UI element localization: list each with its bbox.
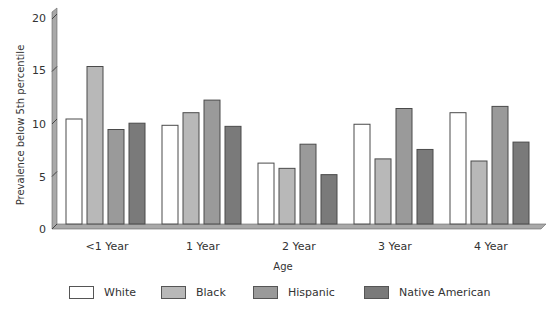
- legend-item-white: White: [69, 284, 136, 300]
- x-category-label-3-year: 3 Year: [350, 240, 440, 253]
- bar-white-2: [258, 163, 274, 224]
- bars-group: [66, 67, 529, 225]
- y-tick-label-20: 20: [24, 13, 46, 24]
- bar-white-0: [66, 119, 82, 224]
- legend-label-hispanic: Hispanic: [288, 286, 335, 299]
- bar-black-0: [87, 67, 103, 225]
- legend: White Black Hispanic Native American: [0, 284, 556, 304]
- bar-black-3: [375, 159, 391, 224]
- legend-label-black: Black: [196, 286, 226, 299]
- bar-hispanic-1: [204, 100, 220, 224]
- bar-hispanic-4: [492, 106, 508, 224]
- bar-hispanic-0: [108, 130, 124, 225]
- y-tick-label-10: 10: [24, 119, 46, 130]
- bar-black-1: [183, 113, 199, 224]
- bar-native-american-4: [513, 142, 529, 224]
- bar-native-american-2: [321, 175, 337, 224]
- bar-white-3: [354, 124, 370, 224]
- legend-item-native-american: Native American: [364, 284, 490, 300]
- x-category-label-2-year: 2 Year: [254, 240, 344, 253]
- bar-native-american-1: [225, 126, 241, 224]
- legend-swatch-native-american: [364, 286, 389, 299]
- bar-chart: Prevalence below 5th percentile 0 5 10 1…: [0, 0, 556, 309]
- x-category-label-4-year: 4 Year: [446, 240, 536, 253]
- bar-hispanic-3: [396, 109, 412, 225]
- y-tick-label-0: 0: [24, 224, 46, 235]
- x-axis-floor: [52, 224, 546, 229]
- legend-swatch-hispanic: [253, 286, 278, 299]
- x-category-label-1-year: 1 Year: [158, 240, 248, 253]
- x-category-label-lt1-year: <1 Year: [62, 240, 152, 253]
- legend-swatch-white: [69, 286, 94, 299]
- legend-item-black: Black: [161, 284, 226, 300]
- bar-black-2: [279, 168, 295, 224]
- bar-hispanic-2: [300, 144, 316, 224]
- legend-item-hispanic: Hispanic: [253, 284, 335, 300]
- y-tick-label-15: 15: [24, 65, 46, 76]
- bar-white-1: [162, 125, 178, 224]
- bar-native-american-3: [417, 149, 433, 224]
- legend-label-white: White: [104, 286, 136, 299]
- bar-black-4: [471, 161, 487, 224]
- x-axis-title: Age: [263, 261, 303, 272]
- legend-swatch-black: [161, 286, 186, 299]
- bar-native-american-0: [129, 123, 145, 224]
- y-tick-label-5: 5: [24, 172, 46, 183]
- bar-white-4: [450, 113, 466, 224]
- legend-label-native-american: Native American: [399, 286, 490, 299]
- y-axis-wall: [52, 8, 57, 229]
